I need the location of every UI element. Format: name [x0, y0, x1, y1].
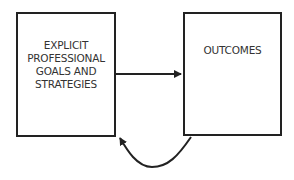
connector-arrows	[0, 0, 294, 180]
feedback-arrow	[120, 137, 191, 167]
